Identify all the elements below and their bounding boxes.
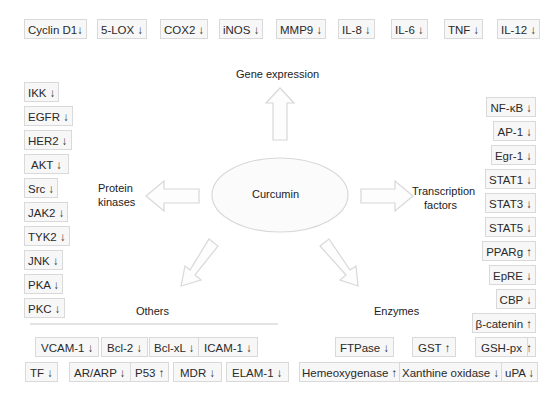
others-box-tf: TF ↓	[25, 362, 58, 382]
transcription-factors-label-line2: factors	[424, 199, 457, 211]
gene-box-tnf: TNF ↓	[444, 19, 483, 39]
others-box-bcl-xl: Bcl-xL ↓	[149, 337, 199, 357]
arrow-right-icon	[361, 181, 413, 211]
transcription-factors-label-line1: Transcription	[412, 185, 475, 197]
others-box-elam-1: ELAM-1 ↓	[226, 362, 289, 382]
gene-box-cox2: COX2 ↓	[160, 19, 208, 39]
gene-expression-label: Gene expression	[236, 68, 319, 80]
enzyme-box-upa: uPA ↓	[501, 362, 538, 382]
tf-box-nf-kb: NF-κB ↓	[486, 97, 536, 117]
protein-kinases-label-line1: Protein	[98, 182, 133, 194]
others-box-bcl-2: Bcl-2 ↓	[101, 337, 148, 357]
enzyme-box-hemeoxygenase: Hemeoxygenase ↑	[299, 362, 400, 382]
gene-box-mmp9: MMP9 ↓	[276, 19, 326, 39]
kinase-box-jnk: JNK ↓	[24, 250, 63, 270]
gene-box-inos: iNOS ↓	[219, 19, 263, 39]
enzyme-box-ftpase: FTPase ↓	[335, 337, 394, 357]
enzyme-box-gsh-px: GSH-px	[475, 337, 528, 357]
others-label: Others	[136, 305, 169, 317]
kinase-box-ikk: IKK ↓	[24, 82, 59, 102]
tf-box-stat5: STAT5 ↓	[485, 217, 536, 237]
kinase-box-jak2: JAK2 ↓	[24, 202, 68, 222]
kinase-box-tyk2: TYK2 ↓	[24, 226, 70, 246]
kinase-box-src: Src ↓	[24, 178, 58, 198]
tf-box-pparg: PPARg ↑	[482, 241, 536, 261]
tf-box-cbp: CBP ↓	[496, 289, 536, 309]
enzymes-label: Enzymes	[374, 305, 419, 317]
curcumin-label: Curcumin	[252, 188, 299, 200]
others-box-ar-arp: AR/ARP ↓	[69, 362, 131, 382]
tf-box-beta-catenin: β-catenin ↑	[472, 313, 536, 333]
arrow-left-icon	[146, 181, 199, 211]
protein-kinases-label-line2: kinases	[98, 196, 135, 208]
gene-box-il-8: IL-8 ↓	[338, 19, 375, 39]
others-box-mdr: MDR ↓	[173, 362, 222, 382]
tf-box-epre: EpRE ↓	[489, 265, 536, 285]
kinase-box-egfr: EGFR ↓	[24, 106, 73, 126]
gene-box-il-6: IL-6 ↓	[391, 19, 428, 39]
arrow-down-right-icon	[320, 239, 358, 286]
others-box-vcam-1: VCAM-1 ↓	[35, 337, 99, 357]
tf-box-stat3: STAT3 ↓	[485, 193, 536, 213]
kinase-box-her2: HER2 ↓	[24, 130, 72, 150]
arrow-up-icon	[266, 88, 294, 140]
others-box-icam-1: ICAM-1 ↓	[198, 337, 258, 357]
gene-box-il-12: IL-12 ↓	[497, 19, 540, 39]
enzyme-box-gst: GST ↑	[412, 337, 456, 357]
tf-box-egr-1: Egr-1 ↓	[491, 145, 536, 165]
others-box-p53: P53 ↑	[130, 362, 169, 382]
kinase-box-pkc: PKC ↓	[24, 298, 65, 318]
kinase-box-pka: PKA ↓	[24, 274, 63, 294]
enzyme-box-xanthine-oxidase: Xanthine oxidase ↓	[399, 362, 502, 382]
tf-box-ap-1: AP-1 ↓	[493, 121, 536, 141]
kinase-box-akt: AKT ↓	[24, 154, 69, 174]
arrow-down-left-icon	[181, 239, 218, 286]
tf-box-stat1: STAT1 ↓	[485, 169, 536, 189]
gene-box-5-lox: 5-LOX ↓	[97, 19, 147, 39]
gene-box-cyclin-d1: Cyclin D1↓	[24, 19, 87, 39]
